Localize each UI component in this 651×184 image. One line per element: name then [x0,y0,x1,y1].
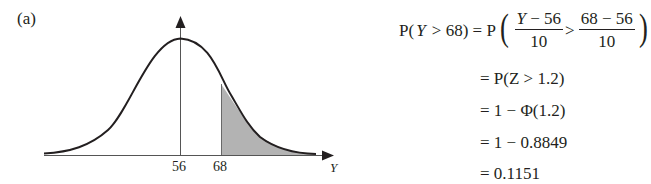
equation-row-5: = 0.1151 [480,165,540,182]
frac2-den: 10 [579,30,635,50]
fraction-2: 68 − 56 10 [579,10,635,50]
eq1-lhs-var: Y [416,22,425,39]
y-axis-arrow-icon [176,16,186,28]
x-axis-arrow-icon [322,151,334,161]
equation-row-1: P(Y > 68) = P ( Y − 56 10 > 68 − 56 10 ) [399,10,651,50]
frac2-num: 68 − 56 [579,10,635,30]
frac1-num-var: Y [517,9,526,28]
frac1-num-rest: − 56 [526,9,561,28]
equation-row-4: = 1 − 0.8849 [480,134,567,151]
close-paren: ) [639,8,648,46]
equation-row-2: = P(Z > 1.2) [480,70,564,87]
eq1-lhs-open: P( [399,22,414,39]
frac1-den: 10 [515,30,564,50]
x-tick-56: 56 [172,159,186,175]
open-paren: ( [500,8,509,46]
x-axis-label: Y [330,160,337,176]
equation-row-3: = 1 − Φ(1.2) [480,102,565,119]
shaded-tail-area [221,84,316,155]
gt-symbol: > [565,22,575,39]
eq1-lhs-rest: > 68) = P [428,22,496,39]
fraction-1: Y − 56 10 [515,10,564,50]
x-tick-68: 68 [213,159,227,175]
